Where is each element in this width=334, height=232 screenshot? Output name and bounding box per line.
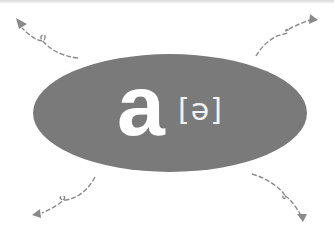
arrow-bottom-right-icon xyxy=(252,174,307,222)
arrow-top-right-icon xyxy=(256,14,318,56)
arrow-bottom-left-icon xyxy=(32,177,95,218)
ipa-transcription: [ə] xyxy=(178,88,238,132)
arrow-top-left-icon xyxy=(16,18,78,58)
letter: a xyxy=(106,60,176,150)
